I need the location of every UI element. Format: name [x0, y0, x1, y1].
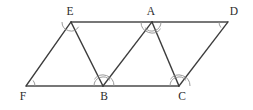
geometry-figure: EADFBC [0, 0, 253, 110]
edge-C-D [179, 22, 228, 86]
vertex-label-d: D [230, 5, 238, 17]
vertex-label-a: A [147, 5, 156, 17]
edge-A-C [152, 22, 179, 86]
figure-canvas: EADFBC [0, 0, 253, 110]
vertex-label-e: E [66, 5, 73, 17]
angle-arc-F [33, 80, 35, 86]
vertex-label-f: F [20, 90, 26, 102]
vertex-label-c: C [178, 90, 186, 102]
segments-group [26, 22, 228, 86]
vertex-label-b: B [100, 90, 108, 102]
edge-F-E [26, 22, 71, 86]
angle-arc-D [219, 22, 221, 28]
edge-E-B [71, 22, 103, 86]
edge-B-A [103, 22, 152, 86]
